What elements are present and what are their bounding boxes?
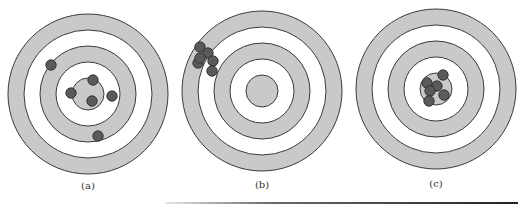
target-a (8, 14, 168, 174)
hit-dot (207, 66, 217, 76)
target-b (182, 11, 342, 171)
hit-dot (66, 88, 76, 98)
hit-dot (107, 91, 117, 101)
accuracy-precision-figure: (a) (b) (c) (0, 0, 525, 206)
hit-dot (438, 70, 448, 80)
hit-dot (46, 60, 56, 70)
hit-dot (208, 56, 218, 66)
hit-dot (195, 53, 205, 63)
label-target-c: (c) (429, 178, 442, 189)
targets-canvas (0, 0, 525, 206)
bottom-rule-divider (165, 202, 518, 204)
hit-dot (93, 131, 103, 141)
hit-dot (439, 90, 449, 100)
hit-dot (425, 86, 435, 96)
bullseye (246, 75, 278, 107)
hit-dot (88, 75, 98, 85)
hit-dot (424, 96, 434, 106)
hit-dot (87, 96, 97, 106)
target-c (356, 9, 516, 169)
label-target-a: (a) (81, 180, 95, 191)
label-target-b: (b) (255, 179, 269, 190)
bullseye (72, 78, 104, 110)
